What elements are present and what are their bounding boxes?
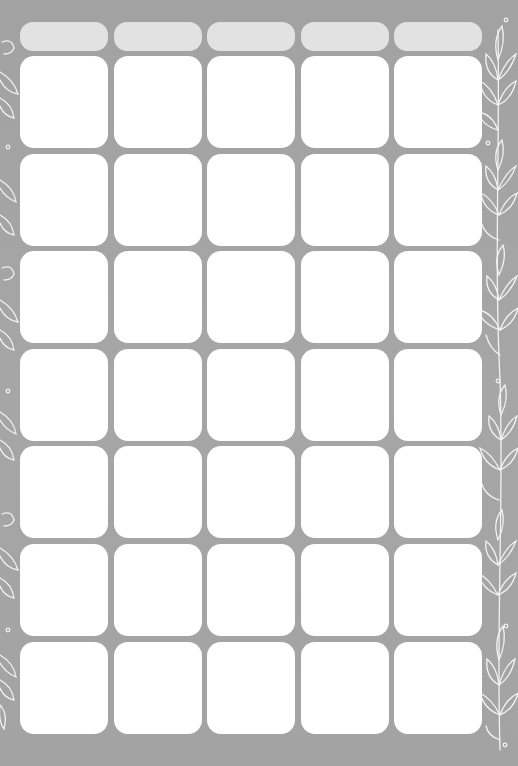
day-cell[interactable] — [207, 446, 295, 538]
planner-grid — [20, 56, 482, 734]
day-cell[interactable] — [114, 154, 202, 246]
day-cell[interactable] — [301, 349, 389, 441]
day-cell[interactable] — [301, 251, 389, 343]
day-cell[interactable] — [301, 446, 389, 538]
day-cell[interactable] — [394, 56, 482, 148]
day-cell[interactable] — [207, 349, 295, 441]
day-cell[interactable] — [301, 154, 389, 246]
day-cell[interactable] — [207, 56, 295, 148]
day-cell[interactable] — [394, 154, 482, 246]
header-cell[interactable] — [301, 22, 389, 51]
day-cell[interactable] — [394, 349, 482, 441]
day-cell[interactable] — [20, 544, 108, 636]
day-cell[interactable] — [207, 642, 295, 734]
day-cell[interactable] — [394, 642, 482, 734]
day-cell[interactable] — [301, 642, 389, 734]
day-cell[interactable] — [301, 544, 389, 636]
day-cell[interactable] — [114, 446, 202, 538]
day-cell[interactable] — [207, 544, 295, 636]
header-cell[interactable] — [20, 22, 108, 51]
leaf-vine-left-icon — [0, 0, 22, 766]
leaf-vine-right-icon — [478, 0, 518, 766]
day-cell[interactable] — [394, 544, 482, 636]
day-cell[interactable] — [20, 251, 108, 343]
day-cell[interactable] — [20, 446, 108, 538]
day-cell[interactable] — [114, 544, 202, 636]
day-cell[interactable] — [114, 349, 202, 441]
day-cell[interactable] — [114, 56, 202, 148]
planner-page — [0, 0, 518, 766]
day-cell[interactable] — [20, 154, 108, 246]
day-cell[interactable] — [394, 446, 482, 538]
header-cell[interactable] — [394, 22, 482, 51]
day-cell[interactable] — [207, 251, 295, 343]
day-cell[interactable] — [20, 642, 108, 734]
day-cell[interactable] — [20, 349, 108, 441]
header-cell[interactable] — [207, 22, 295, 51]
header-row — [20, 22, 482, 51]
header-cell[interactable] — [114, 22, 202, 51]
day-cell[interactable] — [394, 251, 482, 343]
day-cell[interactable] — [114, 642, 202, 734]
day-cell[interactable] — [301, 56, 389, 148]
day-cell[interactable] — [207, 154, 295, 246]
day-cell[interactable] — [114, 251, 202, 343]
day-cell[interactable] — [20, 56, 108, 148]
